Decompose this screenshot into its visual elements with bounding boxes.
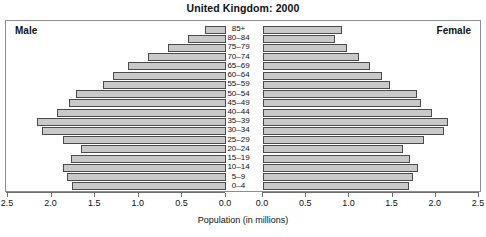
axis-tick-label: 1.5 xyxy=(88,198,101,208)
axis-tick-label: 1.0 xyxy=(342,198,355,208)
axis-tick xyxy=(94,193,95,197)
bar-row xyxy=(9,71,226,80)
bar-row xyxy=(263,173,479,182)
age-label: 30–34 xyxy=(220,125,257,134)
bar-row xyxy=(9,53,226,62)
bar-male-60–64 xyxy=(113,72,226,80)
bar-female-55–59 xyxy=(263,81,390,89)
axis-tick-label: 2.5 xyxy=(1,198,14,208)
bar-male-45–49 xyxy=(69,99,226,107)
axis-tick xyxy=(181,193,182,197)
axis-tick-label: 2.0 xyxy=(429,198,442,208)
bar-female-0–4 xyxy=(263,182,409,190)
axis-tick xyxy=(7,193,8,197)
age-label: 85+ xyxy=(220,24,257,33)
bar-row xyxy=(9,136,226,145)
age-label: 35–39 xyxy=(220,116,257,125)
bar-row xyxy=(263,126,479,135)
female-axis-line xyxy=(262,192,479,193)
age-label: 55–59 xyxy=(220,79,257,88)
bar-row xyxy=(263,108,479,117)
bar-row xyxy=(9,145,226,154)
axis-tick xyxy=(348,193,349,197)
age-label: 50–54 xyxy=(220,89,257,98)
bar-male-35–39 xyxy=(37,118,226,126)
x-axis-caption: Population (in millions) xyxy=(0,215,486,225)
axis-tick-label: 0.5 xyxy=(175,198,188,208)
bar-row xyxy=(263,90,479,99)
bar-female-10–14 xyxy=(263,164,418,172)
population-pyramid-chart: United Kingdom: 2000 Male Female 85+80–8… xyxy=(0,0,486,237)
axis-tick xyxy=(138,193,139,197)
bar-female-75–79 xyxy=(263,44,347,52)
bar-row xyxy=(9,163,226,172)
bar-row xyxy=(9,34,226,43)
axis-tick xyxy=(262,193,263,197)
bar-male-55–59 xyxy=(103,81,226,89)
axis-tick-label: 1.0 xyxy=(132,198,145,208)
age-label: 20–24 xyxy=(220,144,257,153)
bar-row xyxy=(263,43,479,52)
axis-tick xyxy=(435,193,436,197)
bar-row xyxy=(263,71,479,80)
bar-female-25–29 xyxy=(263,136,424,144)
axis-tick-label: 0.0 xyxy=(219,198,232,208)
bar-male-40–44 xyxy=(57,109,226,117)
age-label: 15–19 xyxy=(220,153,257,162)
bar-female-80–84 xyxy=(263,35,335,43)
bar-row xyxy=(9,43,226,52)
age-label: 45–49 xyxy=(220,98,257,107)
bar-male-15–19 xyxy=(71,155,226,163)
bar-row xyxy=(263,154,479,163)
bar-row xyxy=(9,90,226,99)
age-label: 60–64 xyxy=(220,70,257,79)
bar-row xyxy=(263,62,479,71)
bar-row xyxy=(9,173,226,182)
bar-row xyxy=(263,53,479,62)
bar-female-45–49 xyxy=(263,99,421,107)
bar-male-70–74 xyxy=(148,53,226,61)
axis-tick xyxy=(51,193,52,197)
bar-row xyxy=(9,182,226,191)
bar-row xyxy=(263,182,479,191)
bar-female-20–24 xyxy=(263,145,403,153)
bar-female-5–9 xyxy=(263,173,413,181)
bar-male-65–69 xyxy=(128,62,226,70)
bar-row xyxy=(263,145,479,154)
axis-tick xyxy=(225,193,226,197)
bar-row xyxy=(263,99,479,108)
bar-male-20–24 xyxy=(81,145,226,153)
age-label: 5–9 xyxy=(220,172,257,181)
bar-male-10–14 xyxy=(63,164,226,172)
age-label: 70–74 xyxy=(220,52,257,61)
age-label: 25–29 xyxy=(220,135,257,144)
bar-female-70–74 xyxy=(263,53,359,61)
bar-male-5–9 xyxy=(67,173,226,181)
bar-row xyxy=(9,154,226,163)
bar-female-65–69 xyxy=(263,62,370,70)
age-label: 65–69 xyxy=(220,61,257,70)
bar-female-85+ xyxy=(263,26,342,34)
male-bars-panel xyxy=(9,25,226,191)
bar-female-50–54 xyxy=(263,90,417,98)
bar-row xyxy=(9,108,226,117)
axis-tick xyxy=(478,193,479,197)
bar-female-15–19 xyxy=(263,155,410,163)
age-label: 10–14 xyxy=(220,162,257,171)
female-bars-panel xyxy=(263,25,479,191)
age-group-labels: 85+80–8475–7970–7465–6960–6455–5950–5445… xyxy=(220,24,257,190)
axis-tick-label: 2.0 xyxy=(44,198,57,208)
bar-row xyxy=(263,163,479,172)
bar-row xyxy=(263,25,479,34)
age-label: 40–44 xyxy=(220,107,257,116)
bar-row xyxy=(263,117,479,126)
axis-tick xyxy=(305,193,306,197)
bar-female-40–44 xyxy=(263,109,432,117)
bar-male-75–79 xyxy=(168,44,226,52)
bar-row xyxy=(9,62,226,71)
chart-title: United Kingdom: 2000 xyxy=(0,2,486,14)
age-label: 75–79 xyxy=(220,42,257,51)
axis-tick-label: 0.0 xyxy=(256,198,269,208)
age-label: 80–84 xyxy=(220,33,257,42)
age-label: 0–4 xyxy=(220,181,257,190)
